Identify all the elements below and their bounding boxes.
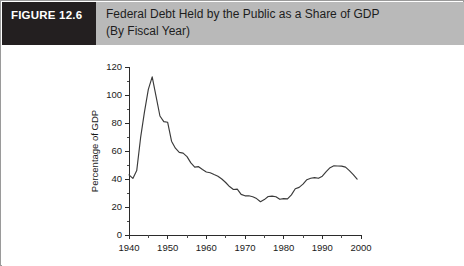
figure-header: FIGURE 12.6 Federal Debt Held by the Pub… bbox=[2, 2, 464, 45]
y-axis-title: Percentage of GDP bbox=[89, 110, 100, 192]
figure-tag-box: FIGURE 12.6 bbox=[2, 2, 96, 45]
data-line-federal-debt bbox=[129, 77, 357, 202]
x-tick-label: 1950 bbox=[157, 242, 178, 253]
x-tick-label: 2000 bbox=[350, 242, 371, 253]
x-axis: 1940195019601970198019902000 bbox=[118, 235, 371, 253]
x-tick-label: 1980 bbox=[273, 242, 294, 253]
y-tick-label: 120 bbox=[106, 61, 122, 72]
x-tick-label: 1960 bbox=[196, 242, 217, 253]
x-tick-label: 1970 bbox=[234, 242, 255, 253]
figure-container: FIGURE 12.6 Federal Debt Held by the Pub… bbox=[0, 0, 464, 266]
y-tick-label: 40 bbox=[111, 173, 122, 184]
y-tick-label: 60 bbox=[111, 145, 122, 156]
line-chart: 020406080100120 194019501960197019801990… bbox=[2, 45, 464, 266]
x-tick-label: 1940 bbox=[118, 242, 139, 253]
chart-series bbox=[129, 77, 357, 202]
y-tick-label: 20 bbox=[111, 201, 122, 212]
figure-title-band: Federal Debt Held by the Public as a Sha… bbox=[96, 2, 464, 45]
chart-plot-area: 020406080100120 194019501960197019801990… bbox=[2, 45, 464, 266]
y-axis: 020406080100120 bbox=[106, 61, 129, 240]
y-tick-label: 80 bbox=[111, 117, 122, 128]
figure-tag-label: FIGURE 12.6 bbox=[2, 8, 82, 22]
x-tick-label: 1990 bbox=[312, 242, 333, 253]
figure-title-line-2: (By Fiscal Year) bbox=[106, 23, 464, 40]
y-tick-label: 100 bbox=[106, 89, 122, 100]
figure-title-line-1: Federal Debt Held by the Public as a Sha… bbox=[106, 6, 464, 23]
y-tick-label: 0 bbox=[117, 229, 122, 240]
